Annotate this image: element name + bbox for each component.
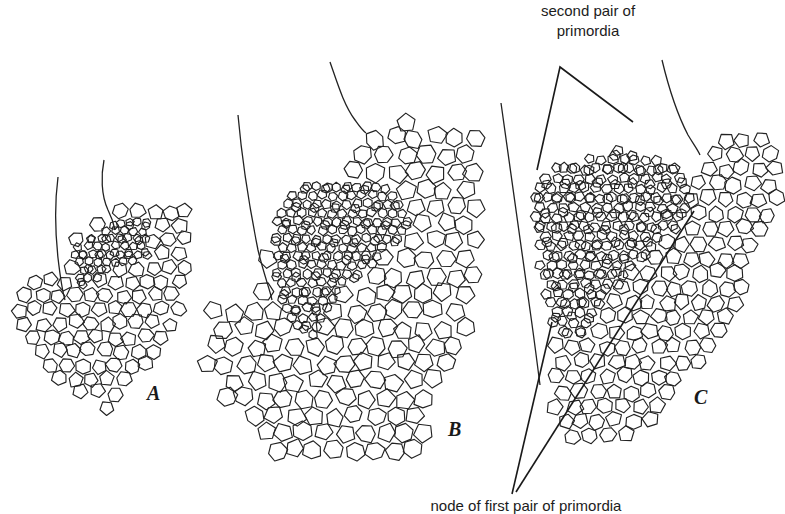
panel-a: A: [11, 160, 192, 416]
first-pair-node-label: node of first pair of primordia: [431, 497, 623, 514]
panel-c-cell-tissue: [530, 133, 784, 444]
panel-b-letter: B: [447, 418, 461, 440]
second-pair-label-line2: primordia: [557, 22, 620, 39]
panel-b-left-leaf-outline: [238, 115, 272, 300]
panel-c-left-leaf-outline: [501, 103, 540, 385]
second-pair-label-line1: second pair of: [541, 2, 636, 19]
panel-a-cell-tissue: [11, 203, 192, 415]
primordia-figure: A B C second pair of primordia node of f…: [0, 0, 785, 514]
panel-b-cell-tissue: [197, 113, 485, 461]
panel-b: B: [197, 62, 485, 461]
panel-a-left-leaf-outline: [56, 177, 65, 300]
panel-a-letter: A: [145, 382, 160, 404]
panel-c: C: [501, 60, 785, 444]
panel-a-right-leaf-outline: [102, 160, 115, 230]
panel-c-letter: C: [694, 386, 708, 408]
panel-b-right-leaf-outline: [330, 62, 366, 133]
panel-c-right-leaf-outline: [662, 60, 700, 155]
